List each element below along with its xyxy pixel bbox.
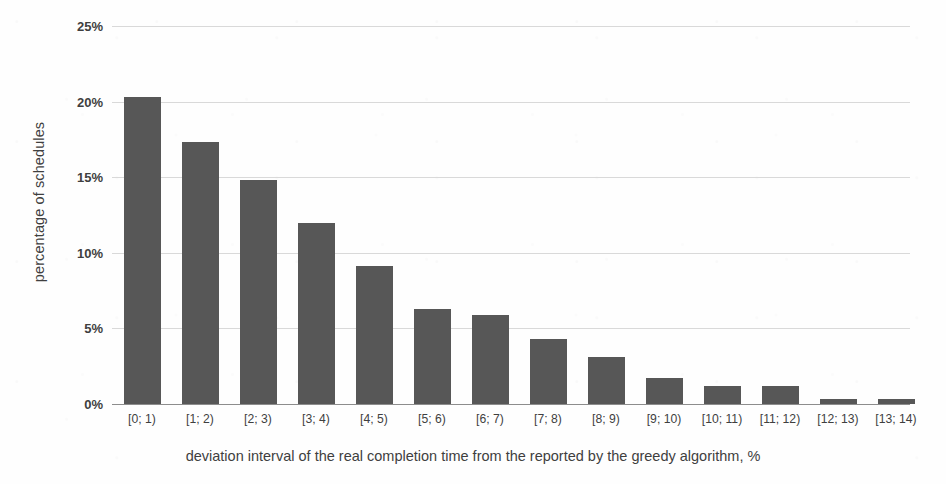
y-tick-label: 20% [77,94,103,109]
bar [298,223,335,404]
bar [356,266,393,404]
bar-chart-figure: percentage of schedules 0%5%10%15%20%25%… [0,0,946,484]
x-tick-label: [11; 12) [760,412,800,426]
bar [472,315,509,404]
x-tick-label: [1; 2) [186,412,214,426]
bar [762,386,799,404]
bar [124,97,161,404]
x-axis-title: deviation interval of the real completio… [0,448,946,464]
x-tick-label: [6; 7) [476,412,504,426]
x-tick-label: [5; 6) [418,412,446,426]
y-tick-label: 25% [77,19,103,34]
x-tick-label: [12; 13) [817,412,858,426]
bar [704,386,741,404]
bar [240,180,277,404]
bar [646,378,683,404]
x-tick-label: [8; 9) [592,412,620,426]
bar [878,399,915,404]
y-tick-label: 5% [84,321,103,336]
x-tick-label: [4; 5) [360,412,388,426]
bar [588,357,625,404]
bar [530,339,567,404]
y-tick-label: 0% [84,397,103,412]
x-tick-label: [13; 14) [875,412,916,426]
x-tick-label: [2; 3) [244,412,272,426]
y-tick-label: 10% [77,245,103,260]
x-tick-label: [0; 1) [128,412,156,426]
x-tick-label: [10; 11) [702,412,742,426]
x-tick-label: [7; 8) [534,412,562,426]
bar [820,399,857,404]
y-axis-title: percentage of schedules [26,0,52,404]
bar-series [112,26,910,404]
x-axis-line [112,404,910,405]
plot-area: 0%5%10%15%20%25% [0; 1)[1; 2)[2; 3)[3; 4… [112,26,910,404]
bar [182,142,219,404]
x-tick-label: [3; 4) [302,412,330,426]
x-tick-label: [9; 10) [647,412,682,426]
bar [414,309,451,404]
y-tick-label: 15% [77,170,103,185]
